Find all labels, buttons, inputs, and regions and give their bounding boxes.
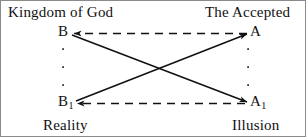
node-b1-base: B <box>58 93 68 109</box>
node-label-b: B <box>58 24 68 39</box>
corner-label-top-right: The Accepted <box>205 5 290 20</box>
right-dot-column <box>247 48 249 86</box>
node-a1-subscript: 1 <box>261 100 266 111</box>
node-b1-subscript: 1 <box>68 100 73 111</box>
node-a1-base: A <box>250 93 261 109</box>
diagram-canvas: Kingdom of God The Accepted Reality Illu… <box>0 0 306 137</box>
node-label-b1: B1 <box>58 94 73 109</box>
edge-b1-to-a-solid <box>76 34 247 101</box>
corner-label-top-left: Kingdom of God <box>8 5 113 20</box>
left-dot-column <box>62 48 64 86</box>
corner-label-bottom-right: Illusion <box>232 118 279 133</box>
node-a-base: A <box>250 23 261 39</box>
node-b-base: B <box>58 23 68 39</box>
node-label-a: A <box>250 24 261 39</box>
node-label-a1: A1 <box>250 94 266 109</box>
corner-label-bottom-left: Reality <box>43 118 88 133</box>
